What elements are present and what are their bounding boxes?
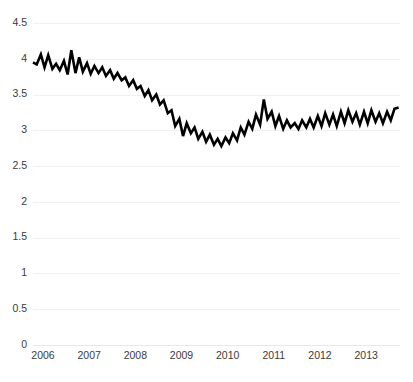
- x-axis-tick-label: 2010: [216, 349, 240, 361]
- y-axis-tick-label: 1: [21, 266, 27, 278]
- data-series-group: [33, 50, 399, 146]
- y-axis-tick-label: 2: [21, 195, 27, 207]
- y-axis-tick-label: 0: [21, 338, 27, 350]
- y-axis-tick-label: 3.5: [12, 87, 27, 99]
- x-axis-tick-label: 2012: [308, 349, 332, 361]
- gridlines: [33, 24, 400, 346]
- x-axis-tick-label: 2011: [263, 349, 286, 361]
- line-chart: 00.511.522.533.544.5 2006200720082009201…: [0, 0, 413, 382]
- series-line: [33, 50, 399, 146]
- y-axis-tick-label: 4: [21, 52, 27, 64]
- x-axis-tick-label: 2007: [77, 349, 101, 361]
- x-axis-tick-labels: 20062007200820092010201120122013: [31, 349, 378, 361]
- x-axis-tick-label: 2009: [170, 349, 194, 361]
- y-axis-tick-label: 1.5: [12, 230, 27, 242]
- chart-container: 00.511.522.533.544.5 2006200720082009201…: [0, 0, 413, 382]
- x-axis-tick-label: 2006: [31, 349, 55, 361]
- y-axis-tick-labels: 00.511.522.533.544.5: [12, 16, 27, 350]
- x-axis-tick-label: 2008: [124, 349, 148, 361]
- x-axis-tick-label: 2013: [354, 349, 378, 361]
- y-axis-tick-label: 4.5: [12, 16, 27, 28]
- y-axis-tick-label: 0.5: [12, 302, 27, 314]
- y-axis-tick-label: 2.5: [12, 159, 27, 171]
- y-axis-tick-label: 3: [21, 123, 27, 135]
